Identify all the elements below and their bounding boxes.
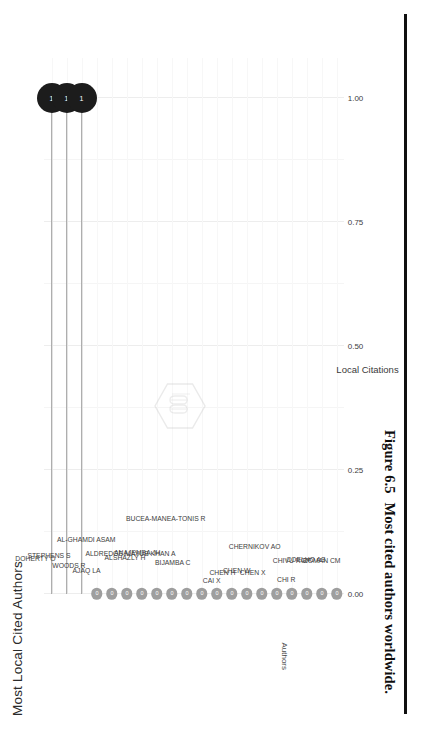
lollipop-stem: [51, 98, 53, 594]
data-point-label: 0: [260, 591, 263, 597]
data-point-label: 0: [110, 591, 113, 597]
caption-number: Figure 6.5: [381, 430, 398, 494]
value-axis-tick: 1.00: [351, 90, 360, 106]
category-axis-label: AL-GHAMDI ASAM: [56, 536, 115, 543]
category-axis-label: AJAQ LA: [72, 567, 100, 574]
grid-line-horizontal: [277, 58, 278, 594]
chart-title: Most Local Cited Authors: [10, 561, 25, 716]
grid-line-horizontal: [97, 58, 98, 594]
lollipop-stem: [66, 98, 68, 594]
data-point-marker: 0: [226, 588, 238, 600]
grid-line-horizontal: [142, 58, 143, 594]
data-point-label: 0: [290, 591, 293, 597]
data-point-marker: 0: [106, 588, 118, 600]
data-point-label: 0: [305, 591, 308, 597]
value-axis-tick: 0.00: [351, 586, 360, 602]
grid-line-horizontal: [307, 58, 308, 594]
category-axis-label: COMAN CM: [302, 557, 340, 564]
grid-line-vertical-minor: [44, 531, 344, 532]
y-axis-title: Authors: [280, 642, 289, 670]
data-point-label: 0: [335, 591, 338, 597]
value-axis-tick-label: 1.00: [348, 93, 364, 102]
data-point-marker: 0: [166, 588, 178, 600]
value-axis-tick-label: 0.50: [348, 341, 364, 350]
category-axis-label: AYUB KHAN A: [130, 550, 175, 557]
grid-line-vertical: [44, 593, 344, 594]
data-point-marker: 0: [331, 588, 343, 600]
grid-line-horizontal: [232, 58, 233, 594]
grid-line-vertical: [44, 469, 344, 470]
y-axis-title-text: Authors: [280, 642, 289, 670]
grid-line-horizontal: [262, 58, 263, 594]
data-point-marker: 0: [121, 588, 133, 600]
value-axis-tick: 0.75: [351, 214, 360, 230]
data-point-label: 0: [155, 591, 158, 597]
grid-line-horizontal: [157, 58, 158, 594]
plot-background: [44, 58, 344, 594]
x-axis-title: Local Citations: [362, 338, 373, 400]
chart-canvas: Most Local Cited Authors 111000000000000…: [4, 16, 396, 722]
data-point-marker: 0: [256, 588, 268, 600]
data-point-label: 0: [200, 591, 203, 597]
value-axis-tick-label: 0.25: [348, 465, 364, 474]
value-axis-tick-label: 0.00: [348, 590, 364, 599]
category-axis-label: CHEN X: [239, 569, 265, 576]
value-axis-tick: 0.25: [351, 462, 360, 478]
grid-line-horizontal: [112, 58, 113, 594]
data-point-label: 0: [170, 591, 173, 597]
data-point-marker: 1: [67, 83, 97, 113]
value-axis-tick-label: 0.75: [348, 217, 364, 226]
data-point-label: 0: [320, 591, 323, 597]
grid-line-horizontal: [322, 58, 323, 594]
data-point-marker: 0: [316, 588, 328, 600]
data-point-marker: 0: [196, 588, 208, 600]
data-point-label: 0: [230, 591, 233, 597]
category-axis-label: BUCEA-MANEA-TONIS R: [125, 515, 205, 522]
data-point-marker: 0: [151, 588, 163, 600]
grid-line-horizontal: [337, 58, 338, 594]
caption-rule: [404, 14, 407, 714]
category-axis-label: STEPHENS S: [27, 552, 70, 559]
data-point-label: 0: [140, 591, 143, 597]
data-point-label: 0: [215, 591, 218, 597]
grid-line-vertical-minor: [44, 283, 344, 284]
category-axis-label: CHERNIKOV AO: [228, 543, 280, 550]
data-point-marker: 0: [211, 588, 223, 600]
grid-line-horizontal: [187, 58, 188, 594]
data-point-label: 0: [185, 591, 188, 597]
category-axis-label: CAI X: [202, 577, 220, 584]
category-axis-label: CHI R: [276, 576, 295, 583]
grid-line-horizontal: [292, 58, 293, 594]
figure-caption: Figure 6.5 Most cited authors worldwide.: [370, 430, 398, 729]
grid-line-vertical-minor: [44, 159, 344, 160]
grid-line-horizontal: [247, 58, 248, 594]
data-point-marker: 0: [301, 588, 313, 600]
data-point-marker: 0: [286, 588, 298, 600]
grid-line-horizontal: [217, 58, 218, 594]
data-point-marker: 0: [91, 588, 103, 600]
data-point-marker: 0: [136, 588, 148, 600]
value-axis-tick: 0.50: [351, 338, 360, 354]
grid-line-horizontal: [127, 58, 128, 594]
data-point-label: 0: [245, 591, 248, 597]
data-point-label: 1: [80, 94, 84, 101]
lollipop-stem: [81, 98, 83, 594]
grid-line-horizontal: [202, 58, 203, 594]
data-point-label: 0: [95, 591, 98, 597]
data-point-label: 0: [125, 591, 128, 597]
grid-line-vertical-minor: [44, 407, 344, 408]
plot-area: 11100000000000000000 DOHERTY OSTEPHENS S…: [44, 58, 344, 594]
x-axis-title-text: Local Citations: [336, 364, 398, 375]
data-point-label: 0: [275, 591, 278, 597]
data-point-marker: 0: [271, 588, 283, 600]
category-axis-label: BIJAMBA C: [154, 559, 190, 566]
data-point-marker: 0: [181, 588, 193, 600]
grid-line-vertical: [44, 221, 344, 222]
data-point-marker: 0: [241, 588, 253, 600]
figure-body: Most Local Cited Authors 111000000000000…: [4, 16, 396, 722]
caption-text: Most cited authors worldwide.: [381, 503, 398, 694]
grid-line-horizontal: [172, 58, 173, 594]
grid-line-vertical: [44, 345, 344, 346]
